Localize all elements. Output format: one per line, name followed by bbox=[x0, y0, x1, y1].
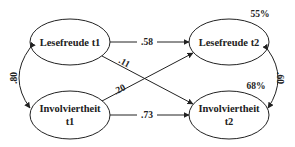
correlation-t1: .80 bbox=[9, 48, 30, 108]
node-label-line2: t2 bbox=[225, 116, 234, 127]
correlation-coefficient: .80 bbox=[9, 72, 19, 84]
correlation-t2: .60 bbox=[268, 50, 285, 108]
node-involviertheit-t1: Involviertheit t1 bbox=[30, 91, 110, 139]
node-lesefreude-t1: Lesefreude t1 bbox=[30, 19, 110, 65]
node-involviertheit-t2: Involviertheit t2 bbox=[189, 91, 269, 139]
r2-lesefreude-t2: 55% bbox=[251, 9, 270, 19]
path-coefficient: .73 bbox=[141, 110, 153, 120]
node-label-line1: Involviertheit bbox=[198, 103, 260, 114]
path-coefficient: .11 bbox=[117, 55, 132, 69]
node-label-line1: Involviertheit bbox=[39, 103, 101, 114]
path-inv1-inv2: .73 bbox=[110, 109, 189, 120]
node-label: Lesefreude t1 bbox=[40, 37, 101, 48]
node-lesefreude-t2: Lesefreude t2 bbox=[189, 19, 269, 65]
node-label: Lesefreude t2 bbox=[199, 37, 260, 48]
path-lf1-lf2: .58 bbox=[110, 36, 189, 47]
path-lf1-inv2: .11 bbox=[102, 55, 193, 104]
path-inv1-lf2: .20 bbox=[102, 53, 193, 101]
diagram-canvas: Lesefreude t1 Involviertheit t1 Lesefreu… bbox=[0, 0, 295, 147]
r2-involviertheit-t2: 68% bbox=[247, 81, 266, 91]
node-label-line2: t1 bbox=[66, 116, 75, 127]
path-coefficient: .58 bbox=[141, 37, 153, 47]
correlation-coefficient: .60 bbox=[275, 72, 285, 84]
path-diagram: Lesefreude t1 Involviertheit t1 Lesefreu… bbox=[0, 0, 295, 147]
